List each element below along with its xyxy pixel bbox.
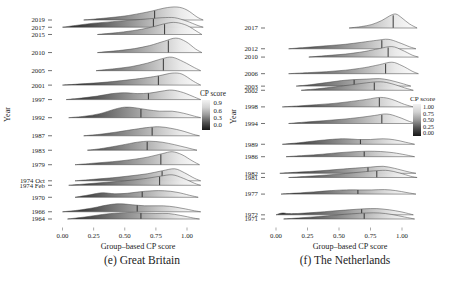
x-tick-label: 0.75 <box>150 232 162 239</box>
x-axis-netherlands: 0.000.250.500.751.00 <box>270 228 408 239</box>
ridge-2006: 2006 <box>244 62 418 77</box>
density-curve <box>286 151 415 157</box>
year-label: 1983 <box>31 147 45 154</box>
density-curve <box>289 39 416 49</box>
ridge-1998: 1998 <box>244 97 413 110</box>
year-label: 1994 <box>244 120 258 127</box>
year-label: 2005 <box>31 67 45 74</box>
ridge-1986: 1986 <box>244 151 414 160</box>
year-label: 1992 <box>31 114 45 121</box>
x-tick-label: 0.25 <box>88 232 100 239</box>
ridge-1977: 1977 <box>244 190 415 198</box>
legend-great-britain: 0.90.60.30.0 <box>202 99 223 130</box>
legend-netherlands: 1.000.750.500.250.00 <box>413 103 434 136</box>
year-label: 1986 <box>244 153 258 160</box>
year-label: 2019 <box>31 16 45 23</box>
legend-colorbar <box>202 100 210 130</box>
year-label: 1979 <box>31 161 45 168</box>
x-tick-label: 0.50 <box>333 232 345 239</box>
year-label: 2015 <box>31 31 45 38</box>
ridgeline-figure: 0.000.250.500.751.0020192017201520102005… <box>0 0 454 281</box>
year-label: 2017 <box>244 24 258 31</box>
density-curve <box>276 209 413 215</box>
year-label: 1981 <box>244 174 258 181</box>
x-tick-label: 0.00 <box>57 232 69 239</box>
density-curve <box>282 97 413 107</box>
legend-tick-label: 0.00 <box>423 129 434 136</box>
legend-colorbar <box>413 104 421 136</box>
ridge-1997: 1997 <box>31 90 200 103</box>
year-label: 2006 <box>244 70 258 77</box>
year-label: 2002 <box>244 87 258 94</box>
panel-netherlands: 0.000.250.500.751.0020172012201020062003… <box>244 14 434 239</box>
x-tick-label: 0.25 <box>302 232 314 239</box>
density-curve <box>97 38 201 53</box>
density-curve <box>282 139 414 145</box>
year-label: 2010 <box>244 53 258 60</box>
density-curve <box>289 62 419 74</box>
year-label: 2012 <box>244 45 258 52</box>
density-curve <box>63 204 201 212</box>
ridge-2010: 2010 <box>31 38 201 56</box>
legend-tick-label: 0.9 <box>214 99 223 106</box>
ridge-2017: 2017 <box>244 14 417 31</box>
ridge-2001: 2001 <box>31 73 200 89</box>
legend-tick-label: 0.3 <box>214 114 223 121</box>
year-label: 1974 Feb <box>20 182 46 189</box>
legend-tick-label: 0.6 <box>214 107 223 114</box>
year-label: 1977 <box>244 190 258 197</box>
year-label: 2017 <box>31 24 45 31</box>
density-curve <box>75 152 200 165</box>
year-label: 1964 <box>31 215 45 222</box>
x-tick-label: 0.75 <box>365 232 377 239</box>
ridge-1992: 1992 <box>31 107 200 121</box>
year-label: 1989 <box>244 141 258 148</box>
density-curve <box>84 7 204 20</box>
year-label: 1987 <box>31 132 45 139</box>
ridge-2005: 2005 <box>31 57 200 74</box>
density-curve <box>87 141 197 150</box>
legend-tick-label: 0.0 <box>214 121 223 128</box>
year-label: 1970 <box>31 194 45 201</box>
density-curve <box>63 73 201 85</box>
density-curve <box>68 213 200 220</box>
density-curve <box>66 90 201 100</box>
density-curve <box>349 14 417 28</box>
ridge-1989: 1989 <box>244 139 414 148</box>
density-curve <box>84 127 200 136</box>
ridgeline-chart: 0.000.250.500.751.0020192017201520102005… <box>0 0 454 281</box>
year-label: 1998 <box>244 103 258 110</box>
x-tick-label: 1.00 <box>396 232 408 239</box>
ridge-1964: 1964 <box>31 213 199 223</box>
density-curve <box>96 57 201 71</box>
ridge-1970: 1970 <box>31 191 198 201</box>
density-curve <box>281 190 416 195</box>
density-curve <box>289 114 418 124</box>
year-label: 2001 <box>31 82 45 89</box>
ridge-1979: 1979 <box>31 152 199 168</box>
year-label: 1971 <box>244 215 258 222</box>
x-axis-great-britain: 0.000.250.500.751.00 <box>57 228 194 239</box>
ridge-1994: 1994 <box>244 114 417 127</box>
x-tick-label: 0.50 <box>119 232 131 239</box>
density-curve <box>69 107 201 118</box>
ridge-1987: 1987 <box>31 127 199 139</box>
year-label: 1997 <box>31 96 45 103</box>
panel-great-britain: 0.000.250.500.751.0020192017201520102005… <box>20 7 223 239</box>
ridge-1974-feb: 1974 Feb <box>20 175 201 189</box>
year-label: 1966 <box>31 208 45 215</box>
x-tick-label: 0.00 <box>270 232 282 239</box>
x-tick-label: 1.00 <box>181 232 193 239</box>
year-label: 2010 <box>31 49 45 56</box>
density-curve <box>75 191 198 198</box>
